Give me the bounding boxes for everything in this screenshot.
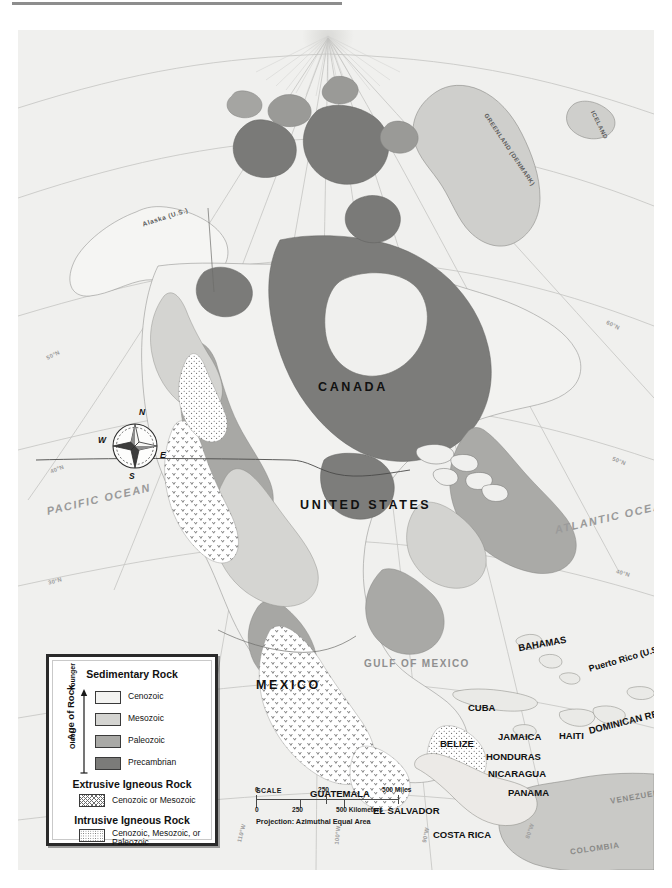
- scale-num-km-0: 0: [255, 806, 259, 813]
- map-page: CANADA UNITED STATES MEXICO BELIZE GUATE…: [0, 0, 672, 888]
- legend-label-precambrian: Precambrian: [128, 758, 176, 767]
- legend-heading-extrusive: Extrusive Igneous Rock: [49, 778, 215, 790]
- scale-tick-mi-250: [326, 795, 327, 804]
- scale-bar-graphic: 0 250 500 Miles: [256, 795, 441, 804]
- legend-heading-intrusive: Intrusive Igneous Rock: [49, 814, 215, 826]
- legend-swatch-precambrian: [95, 757, 121, 770]
- legend-item-paleozoic[interactable]: Paleozoic: [95, 730, 215, 752]
- compass-rose: N S E W: [96, 405, 174, 487]
- legend-age-younger: Younger: [69, 647, 76, 691]
- legend-label-paleozoic: Paleozoic: [128, 736, 165, 745]
- compass-label-north: N: [139, 407, 145, 417]
- caribbean-islands: [453, 634, 654, 736]
- legend-swatch-intrusive: [79, 829, 105, 842]
- projection-note: Projection: Azimuthal Equal Area: [256, 817, 441, 826]
- legend-label-mesozoic: Mesozoic: [128, 714, 164, 723]
- legend-item-cenozoic[interactable]: Cenozoic: [95, 686, 215, 708]
- legend-age-axis: Age of Rock Younger Older: [57, 689, 89, 775]
- top-divider-rule: [12, 2, 342, 5]
- scale-bar: SCALE 0 250 500 Miles 0 250 500 Kilomete…: [256, 787, 441, 826]
- legend-swatch-mesozoic: [95, 713, 121, 726]
- scale-km-row: 0 250 500 Kilometers: [256, 804, 441, 815]
- compass-label-south: S: [129, 471, 135, 481]
- scale-title: SCALE: [256, 787, 441, 794]
- scale-num-km-500: 500 Kilometers: [336, 806, 383, 813]
- legend-item-precambrian[interactable]: Precambrian: [95, 752, 215, 774]
- legend-item-mesozoic[interactable]: Mesozoic: [95, 708, 215, 730]
- scale-num-km-250: 250: [292, 806, 303, 813]
- landmass-greenland: [413, 85, 540, 246]
- legend-age-arrow: [79, 689, 89, 775]
- legend-swatch-cenozoic: [95, 691, 121, 704]
- scale-tick-mi-500: [398, 795, 399, 804]
- compass-rose-svg: [96, 405, 174, 487]
- scale-num-mi-0: 0: [255, 786, 259, 793]
- map-legend: Sedimentary Rock Age of Rock Younger Old…: [46, 654, 218, 846]
- scale-num-mi-500: 500 Miles: [382, 786, 411, 793]
- compass-label-west: W: [98, 435, 106, 445]
- legend-label-intrusive: Cenozoic, Mesozoic, or Paleozoic: [112, 829, 216, 847]
- legend-swatch-paleozoic: [95, 735, 121, 748]
- legend-label-cenozoic: Cenozoic: [128, 692, 163, 701]
- landmass-iceland: [567, 101, 615, 139]
- legend-age-older: Older: [69, 715, 76, 749]
- scale-bar-line: [256, 799, 399, 800]
- legend-swatch-extrusive: [79, 794, 105, 807]
- legend-item-intrusive[interactable]: Cenozoic, Mesozoic, or Paleozoic: [79, 829, 216, 847]
- scale-num-mi-250: 250: [318, 786, 329, 793]
- compass-label-east: E: [160, 450, 166, 460]
- legend-sedimentary-items: Cenozoic Mesozoic Paleozoic Precambrian: [95, 686, 215, 774]
- legend-item-extrusive[interactable]: Cenozoic or Mesozoic: [79, 794, 196, 807]
- legend-label-extrusive: Cenozoic or Mesozoic: [112, 796, 196, 805]
